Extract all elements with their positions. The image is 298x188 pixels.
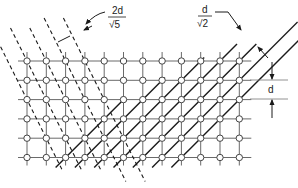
lattice-node	[101, 58, 107, 64]
lattice-node	[43, 116, 49, 122]
solid-spacing-numerator: d	[202, 4, 208, 15]
lattice-diagram: 2d √5 d √2 d	[0, 0, 298, 188]
lattice-node	[198, 96, 204, 102]
solid-diagonal-line	[152, 22, 298, 168]
lattice-node	[159, 135, 165, 141]
leader-arrow	[215, 12, 241, 30]
lattice-node	[101, 116, 107, 122]
lattice-node	[217, 58, 223, 64]
lattice-node	[140, 116, 146, 122]
lattice-node	[198, 135, 204, 141]
lattice-node	[24, 77, 30, 83]
lattice-node	[217, 135, 223, 141]
solid-spacing-dimension: d √2	[197, 4, 268, 58]
lattice-node	[236, 154, 242, 160]
lattice-node	[217, 116, 223, 122]
lattice-node	[198, 58, 204, 64]
lattice-node	[82, 135, 88, 141]
lattice-node	[62, 135, 68, 141]
lattice-node	[159, 154, 165, 160]
lattice-node	[140, 96, 146, 102]
lattice-node	[120, 154, 126, 160]
lattice-node	[159, 116, 165, 122]
lattice-node	[101, 77, 107, 83]
solid-diagonal-lines	[56, 22, 298, 168]
lattice-node	[178, 154, 184, 160]
lattice-node	[159, 58, 165, 64]
dimension-arrow	[84, 26, 92, 30]
lattice-node	[62, 58, 68, 64]
lattice-node	[24, 96, 30, 102]
lattice-node	[140, 58, 146, 64]
lattice-node	[24, 58, 30, 64]
lattice-node	[62, 116, 68, 122]
grid-spacing-label: d	[268, 84, 274, 95]
dashed-spacing-denominator: √5	[109, 19, 120, 30]
leader-arrow	[86, 12, 105, 24]
lattice-node	[82, 58, 88, 64]
lattice-node	[62, 77, 68, 83]
lattice-node	[140, 77, 146, 83]
lattice-node	[82, 116, 88, 122]
lattice-node	[236, 58, 242, 64]
lattice-node	[236, 96, 242, 102]
lattice-node	[178, 135, 184, 141]
lattice-node	[198, 116, 204, 122]
lattice-node	[217, 154, 223, 160]
lattice-node	[178, 96, 184, 102]
lattice-node	[198, 77, 204, 83]
lattice-node	[236, 116, 242, 122]
lattice-node	[120, 58, 126, 64]
lattice-node	[217, 77, 223, 83]
lattice-node	[178, 58, 184, 64]
lattice-node	[198, 154, 204, 160]
lattice-node	[236, 135, 242, 141]
lattice-node	[101, 96, 107, 102]
lattice-node	[178, 77, 184, 83]
lattice-node	[24, 154, 30, 160]
dashed-spacing-dimension: 2d √5	[58, 5, 126, 42]
lattice-node	[82, 96, 88, 102]
lattice-node	[43, 135, 49, 141]
lattice-node	[82, 77, 88, 83]
lattice-node	[43, 96, 49, 102]
grid-lines	[18, 52, 251, 166]
lattice-node	[178, 116, 184, 122]
lattice-node	[120, 116, 126, 122]
lattice-node	[101, 135, 107, 141]
lattice-node	[217, 96, 223, 102]
lattice-node	[159, 77, 165, 83]
lattice-node	[120, 77, 126, 83]
lattice-node	[62, 96, 68, 102]
lattice-node	[159, 96, 165, 102]
lattice-node	[101, 154, 107, 160]
dashed-spacing-numerator: 2d	[112, 5, 123, 16]
lattice-node	[82, 154, 88, 160]
lattice-node	[43, 154, 49, 160]
lattice-node	[43, 58, 49, 64]
lattice-node	[120, 135, 126, 141]
solid-spacing-denominator: √2	[197, 18, 208, 29]
lattice-node	[140, 135, 146, 141]
lattice-node	[120, 96, 126, 102]
lattice-node	[24, 116, 30, 122]
solid-diagonal-line	[75, 78, 165, 168]
solid-diagonal-line	[171, 28, 298, 168]
lattice-node	[140, 154, 146, 160]
dimension-line	[58, 36, 70, 42]
lattice-node	[24, 135, 30, 141]
lattice-node	[43, 77, 49, 83]
lattice-node	[236, 77, 242, 83]
lattice-node	[62, 154, 68, 160]
